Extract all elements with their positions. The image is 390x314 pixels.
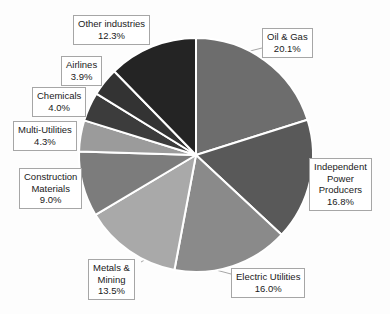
- callout-ipp-line4: 16.8%: [314, 196, 367, 208]
- callout-multi-utilities-line1: Multi-Utilities: [18, 124, 72, 136]
- callout-construction-materials-line2: Materials: [24, 183, 77, 195]
- callout-construction-materials-line1: Construction: [24, 171, 77, 183]
- callout-chemicals-line1: Chemicals: [37, 90, 81, 102]
- callout-multi-utilities-line2: 4.3%: [18, 136, 72, 148]
- callout-ipp-line2: Power: [314, 173, 367, 185]
- callout-metals-mining-line1: Metals &: [93, 262, 130, 274]
- callout-chemicals-line2: 4.0%: [37, 102, 81, 114]
- callout-other-industries-line2: 12.3%: [78, 30, 145, 42]
- pie-slice-group: [79, 38, 313, 272]
- callout-ipp-line3: Producers: [314, 184, 367, 196]
- callout-oil-gas-line2: 20.1%: [267, 43, 308, 55]
- callout-ipp-line1: Independent: [314, 161, 367, 173]
- callout-oil-gas[interactable]: Oil & Gas 20.1%: [262, 28, 313, 58]
- callout-electric-utilities-line2: 16.0%: [236, 283, 300, 295]
- pie-chart-svg: [0, 0, 390, 314]
- callout-electric-utilities-line1: Electric Utilities: [236, 271, 300, 283]
- callout-airlines-line1: Airlines: [66, 59, 97, 71]
- callout-chemicals[interactable]: Chemicals 4.0%: [32, 87, 86, 117]
- pie-chart-page: Oil & Gas 20.1% Independent Power Produc…: [0, 0, 390, 314]
- callout-metals-mining[interactable]: Metals & Mining 13.5%: [88, 259, 135, 300]
- callout-oil-gas-line1: Oil & Gas: [267, 31, 308, 43]
- callout-other-industries-line1: Other industries: [78, 18, 145, 30]
- callout-airlines-line2: 3.9%: [66, 71, 97, 83]
- callout-independent-power-producers[interactable]: Independent Power Producers 16.8%: [309, 158, 372, 211]
- callout-electric-utilities[interactable]: Electric Utilities 16.0%: [231, 268, 305, 298]
- callout-construction-materials-line3: 9.0%: [24, 194, 77, 206]
- callout-airlines[interactable]: Airlines 3.9%: [61, 56, 102, 86]
- callout-metals-mining-line2: Mining: [93, 274, 130, 286]
- callout-multi-utilities[interactable]: Multi-Utilities 4.3%: [13, 121, 77, 151]
- callout-metals-mining-line3: 13.5%: [93, 285, 130, 297]
- callout-other-industries[interactable]: Other industries 12.3%: [73, 15, 150, 45]
- callout-construction-materials[interactable]: Construction Materials 9.0%: [19, 168, 82, 209]
